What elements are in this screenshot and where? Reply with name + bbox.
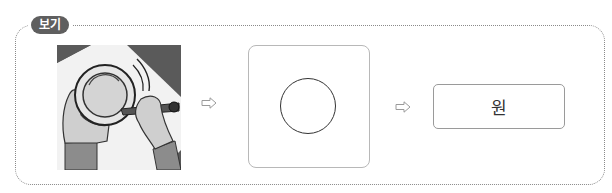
answer-box: 원: [433, 84, 565, 129]
answer-label: 원: [491, 94, 507, 119]
tracing-cup-illustration: [57, 45, 181, 170]
tracing-cup-image: [57, 45, 181, 170]
right-arrow-icon: [201, 97, 217, 109]
circle-shape: [280, 78, 336, 134]
shape-box: [248, 45, 370, 168]
right-arrow-icon: [395, 101, 411, 113]
example-badge: 보기: [31, 16, 69, 34]
